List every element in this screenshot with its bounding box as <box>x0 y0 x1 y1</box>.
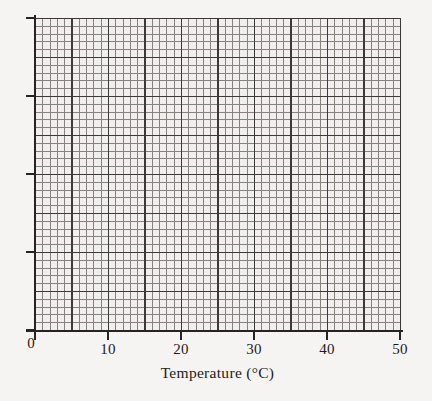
y-axis-tick-2 <box>26 173 35 175</box>
x-axis-tick-label-30: 30 <box>234 340 274 358</box>
x-axis-tick-label-10: 10 <box>88 340 128 358</box>
plot-area-top-edge <box>35 18 401 19</box>
x-axis-tick-30 <box>253 331 255 340</box>
x-axis-tick-50 <box>399 331 401 340</box>
x-axis-title: Temperature (°C) <box>35 363 400 383</box>
x-axis-line <box>26 330 403 332</box>
y-axis-tick-3 <box>26 95 35 97</box>
x-axis-tick-10 <box>107 331 109 340</box>
plot-area-right-edge <box>400 18 401 331</box>
y-axis-tick-4 <box>26 17 35 19</box>
plot-area-graph-paper <box>35 18 400 330</box>
x-axis-tick-label-40: 40 <box>307 340 347 358</box>
x-axis-tick-label-0: 0 <box>11 334 51 352</box>
y-axis-tick-1 <box>26 251 35 253</box>
x-axis-tick-40 <box>326 331 328 340</box>
x-axis-tick-20 <box>180 331 182 340</box>
x-axis-tick-label-20: 20 <box>161 340 201 358</box>
graph-figure: 0 10 20 30 40 50 Temperature (°C) <box>0 0 432 401</box>
x-axis-tick-label-50: 50 <box>380 340 420 358</box>
